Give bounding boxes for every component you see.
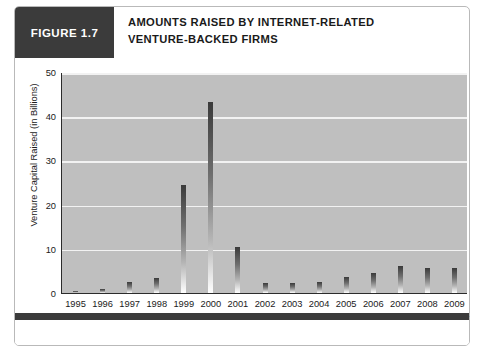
figure-header: FIGURE 1.7 AMOUNTS RAISED BY INTERNET-RE… bbox=[15, 7, 469, 58]
chart-area: Venture Capital Raised (in Billions) 010… bbox=[15, 58, 469, 314]
bar bbox=[398, 266, 403, 293]
figure-title-line-2: VENTURE-BACKED FIRMS bbox=[128, 31, 469, 48]
y-axis-tick-label: 20 bbox=[46, 201, 56, 211]
bar bbox=[290, 283, 295, 293]
gridline bbox=[62, 117, 467, 119]
figure-number-label: FIGURE 1.7 bbox=[31, 27, 99, 39]
figure-number-badge: FIGURE 1.7 bbox=[15, 7, 114, 58]
bottom-divider bbox=[15, 313, 469, 320]
x-axis-tick-label: 2009 bbox=[444, 299, 465, 309]
gridline bbox=[62, 206, 467, 208]
bar bbox=[452, 268, 457, 293]
gridline bbox=[62, 250, 467, 252]
x-axis-tick-label: 2008 bbox=[417, 299, 438, 309]
bar bbox=[344, 277, 349, 293]
x-axis-tick-label: 2003 bbox=[282, 299, 303, 309]
x-axis-tick-label: 1996 bbox=[92, 299, 113, 309]
bar bbox=[127, 282, 132, 293]
y-axis-tick-label: 0 bbox=[51, 289, 56, 299]
x-axis-tick-label: 1998 bbox=[146, 299, 167, 309]
bar bbox=[317, 282, 322, 293]
x-axis-tick-label: 1995 bbox=[65, 299, 86, 309]
bar bbox=[371, 273, 376, 293]
x-axis-tick-label: 2005 bbox=[336, 299, 357, 309]
bar bbox=[235, 247, 240, 293]
x-axis-tick-label: 2001 bbox=[228, 299, 249, 309]
x-axis-tick-label: 2000 bbox=[201, 299, 222, 309]
gridline bbox=[62, 73, 467, 75]
bar bbox=[73, 291, 78, 293]
x-axis-tick-label: 2004 bbox=[309, 299, 330, 309]
x-axis-tick-label: 2007 bbox=[390, 299, 411, 309]
x-axis-tick-label: 2006 bbox=[363, 299, 384, 309]
x-axis-tick-label: 2002 bbox=[255, 299, 276, 309]
x-axis-tick-label: 1997 bbox=[119, 299, 140, 309]
figure-card: FIGURE 1.7 AMOUNTS RAISED BY INTERNET-RE… bbox=[14, 6, 470, 346]
y-axis-tick-label: 10 bbox=[46, 245, 56, 255]
y-axis-tick-label: 40 bbox=[46, 112, 56, 122]
bar bbox=[154, 278, 159, 293]
bar bbox=[100, 289, 105, 293]
y-axis-title: Venture Capital Raised (in Billions) bbox=[29, 62, 39, 248]
figure-title: AMOUNTS RAISED BY INTERNET-RELATED VENTU… bbox=[114, 7, 469, 58]
bar bbox=[208, 102, 213, 293]
gridline bbox=[62, 161, 467, 163]
bar bbox=[263, 283, 268, 293]
y-axis-tick-label: 50 bbox=[46, 68, 56, 78]
bar bbox=[425, 268, 430, 293]
x-axis-tick-label: 1999 bbox=[173, 299, 194, 309]
figure-footer bbox=[15, 320, 469, 345]
bar bbox=[181, 185, 186, 293]
plot-area: 01020304050 1995199619971998199920002001… bbox=[61, 73, 467, 294]
figure-title-line-1: AMOUNTS RAISED BY INTERNET-RELATED bbox=[128, 14, 469, 31]
y-axis-tick-label: 30 bbox=[46, 156, 56, 166]
